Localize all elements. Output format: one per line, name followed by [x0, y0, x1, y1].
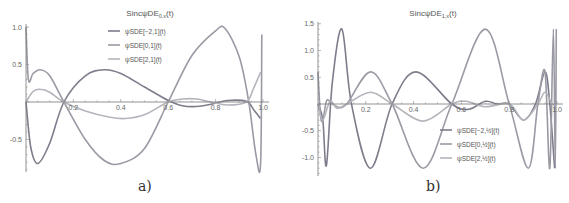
chart-a: SincψDE0,x(t)0.20.40.60.81.01.00.5-0.5ψS…	[0, 0, 285, 203]
x-tick-label: 0.2	[69, 104, 79, 111]
x-tick-label: 0.8	[211, 104, 221, 111]
x-tick-label: 0.6	[163, 104, 173, 111]
legend-label-0: ψSDE[−2,½](t)	[457, 127, 499, 135]
y-tick-label: 1.0	[304, 47, 314, 54]
legend-label-1: ψSDE[0,½](t)	[457, 141, 496, 149]
chart-b-plot: SincψDE1,x(t)0.20.40.60.81.01.51.00.5-0.…	[285, 0, 569, 180]
panel-label-b: b)	[426, 178, 440, 194]
legend-label-2: ψSDE[2,½](t)	[457, 155, 496, 163]
x-tick-label: 0.4	[116, 104, 126, 111]
y-tick-label: 1.5	[304, 20, 314, 27]
y-tick-label: -0.5	[302, 127, 314, 134]
x-tick-label: 0.2	[361, 106, 371, 113]
x-tick-label: 0.4	[409, 106, 419, 113]
legend-label-2: ψSDE[2,1](t)	[125, 56, 162, 64]
x-tick-label: 1.0	[552, 106, 562, 113]
x-tick-label: 0.8	[504, 106, 514, 113]
x-tick-label: 0.6	[457, 106, 467, 113]
y-tick-label: -0.5	[10, 136, 22, 143]
chart-a-plot: SincψDE0,x(t)0.20.40.60.81.01.00.5-0.5ψS…	[0, 0, 285, 180]
x-tick-label: 1.0	[258, 104, 268, 111]
panel-label-a: a)	[138, 178, 152, 194]
y-tick-label: 0.5	[12, 61, 22, 68]
legend-label-0: ψSDE[−2,1](t)	[125, 28, 166, 36]
chart-title: SincψDE0,x(t)	[126, 9, 174, 19]
chart-title: SincψDE1,x(t)	[409, 9, 457, 19]
chart-b: SincψDE1,x(t)0.20.40.60.81.01.51.00.5-0.…	[285, 0, 569, 203]
legend-label-1: ψSDE[0,1](t)	[125, 42, 162, 50]
y-tick-label: 1.0	[12, 24, 22, 31]
y-tick-label: 0.5	[304, 74, 314, 81]
y-tick-label: -1.0	[302, 154, 314, 161]
